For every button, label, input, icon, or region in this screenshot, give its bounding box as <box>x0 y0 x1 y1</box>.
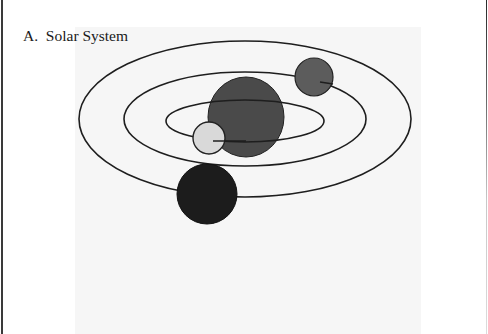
solar-system-diagram <box>0 0 488 334</box>
figure-frame: A. Solar System <box>0 0 488 334</box>
middle-planet <box>295 58 333 96</box>
outer-planet <box>177 164 237 224</box>
inner-planet <box>193 122 225 154</box>
